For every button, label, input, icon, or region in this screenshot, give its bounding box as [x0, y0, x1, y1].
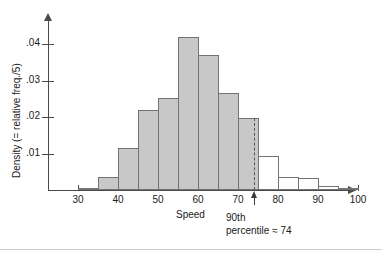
bar-45-50 — [138, 110, 159, 190]
percentile-dashed-line — [254, 118, 255, 190]
percentile-annotation: 90th percentile ≈ 74 — [226, 211, 292, 237]
bar-65-70 — [218, 93, 239, 190]
x-axis-title: Speed — [176, 209, 205, 220]
y-axis-line — [48, 20, 49, 191]
y-tick-02 — [42, 117, 54, 118]
x-tick-label-40: 40 — [105, 194, 131, 205]
bar-40-45 — [118, 148, 139, 190]
x-tick-label-30: 30 — [65, 194, 91, 205]
bar-75-80 — [258, 156, 279, 190]
x-tick-label-100: 100 — [345, 194, 371, 205]
percentile-annotation-line1: 90th — [226, 211, 292, 224]
y-tick-03 — [42, 81, 54, 82]
x-tick-label-80: 80 — [265, 194, 291, 205]
y-tick-04 — [42, 44, 54, 45]
percentile-arrow-icon — [251, 191, 257, 198]
bar-85-90 — [298, 178, 319, 190]
bar-55-60 — [178, 37, 199, 190]
bar-35-40 — [98, 177, 119, 190]
y-tick-label-01: .01 — [20, 147, 40, 158]
bar-50-55 — [158, 98, 179, 190]
x-tick-label-60: 60 — [185, 194, 211, 205]
histogram-figure: Density (= relative freq./5) Speed .01.0… — [0, 0, 382, 256]
x-tick-label-70: 70 — [225, 194, 251, 205]
x-tick-label-90: 90 — [305, 194, 331, 205]
bar-95-100 — [338, 188, 359, 190]
y-tick-01 — [42, 154, 54, 155]
bar-90-95 — [318, 186, 339, 190]
bar-80-85 — [278, 177, 299, 190]
y-tick-label-03: .03 — [20, 74, 40, 85]
y-tick-label-02: .02 — [20, 110, 40, 121]
plot-area: Density (= relative freq./5) Speed .01.0… — [0, 0, 382, 256]
bar-30-35 — [78, 188, 99, 190]
y-axis-arrow-icon — [44, 13, 52, 21]
percentile-annotation-line2: percentile ≈ 74 — [226, 224, 292, 237]
y-tick-label-04: .04 — [20, 37, 40, 48]
bar-70-75 — [238, 118, 259, 190]
bar-60-65 — [198, 55, 219, 190]
page-edge-rule — [0, 249, 382, 250]
x-tick-label-50: 50 — [145, 194, 171, 205]
